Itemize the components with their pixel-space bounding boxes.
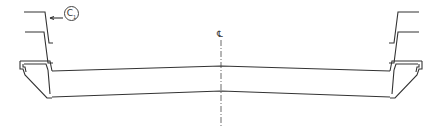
- right-bracket-lower: [389, 32, 419, 63]
- right-bracket-upper: [389, 12, 419, 43]
- left-bracket-lower: [25, 32, 53, 63]
- callout-subscript: 1: [73, 14, 76, 20]
- cross-section-diagram: ℄ C1: [0, 0, 442, 138]
- left-bracket-upper: [24, 12, 53, 43]
- left-tray-edge: [20, 61, 52, 98]
- centerline-label: ℄: [217, 29, 223, 39]
- right-tray-edge: [390, 61, 422, 98]
- profile-drawing: [0, 0, 442, 138]
- callout-c1: C1: [64, 6, 79, 21]
